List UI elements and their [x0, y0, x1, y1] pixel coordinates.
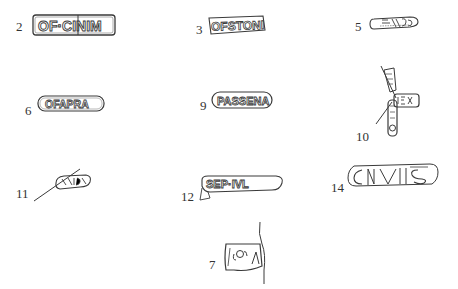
stamp-number-5: 5 — [355, 20, 362, 33]
stamp-3-text: OFSTONI — [211, 18, 265, 34]
stamp-14-drawing — [344, 162, 444, 192]
stamp-number-11: 11 — [16, 187, 29, 200]
stamp-7-drawing — [220, 220, 272, 286]
stamp-10-drawing — [372, 64, 424, 144]
stamp-number-7: 7 — [209, 258, 216, 271]
stamp-12-text: SEP·IVL — [206, 178, 249, 190]
stamp-number-10: 10 — [356, 130, 369, 143]
stamp-3-drawing: OFSTONI — [205, 12, 269, 38]
stamp-number-3: 3 — [196, 23, 203, 36]
stamp-plate: 2 OF·CINIM 3 OFSTONI 5 6 OFAPRA 9 PASSEN… — [0, 0, 458, 289]
stamp-6-drawing: OFAPRA — [35, 92, 107, 116]
stamp-5-drawing — [366, 12, 422, 34]
stamp-2-drawing: OF·CINIM — [30, 12, 120, 40]
stamp-number-2: 2 — [16, 20, 23, 33]
stamp-12-drawing: SEP·IVL — [196, 170, 288, 206]
stamp-2-text: OF·CINIM — [38, 18, 102, 34]
stamp-9-text: PASSENA — [217, 95, 269, 107]
stamp-number-12: 12 — [181, 190, 194, 203]
stamp-number-9: 9 — [200, 99, 207, 112]
stamp-11-drawing — [30, 165, 96, 205]
stamp-6-text: OFAPRA — [45, 98, 89, 110]
stamp-number-6: 6 — [25, 104, 32, 117]
stamp-9-drawing: PASSENA — [210, 89, 276, 113]
stamp-number-14: 14 — [331, 181, 344, 194]
